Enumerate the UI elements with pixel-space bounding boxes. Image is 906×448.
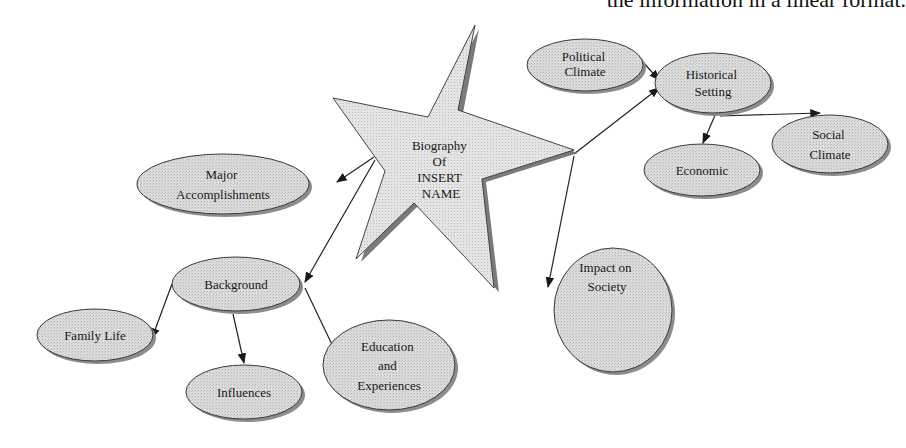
node-family-life[interactable]: Family Life: [37, 309, 156, 364]
node-influences[interactable]: Influences: [186, 365, 305, 422]
node-label: Background: [204, 277, 268, 292]
node-economic[interactable]: Economic: [644, 144, 763, 199]
edge-background-influences: [233, 314, 244, 363]
node-social-climate[interactable]: Social Climate: [772, 115, 891, 176]
edge-background-family: [152, 284, 172, 338]
node-background[interactable]: Background: [172, 257, 303, 314]
node-label: Economic: [676, 163, 729, 178]
node-label: Influences: [217, 385, 271, 400]
node-label: Political Climate: [562, 49, 609, 79]
node-major-accomplishments[interactable]: Major Accomplishments: [137, 154, 312, 217]
concept-map: Biography Of INSERT NAME Political Clima…: [0, 0, 906, 448]
edge-biography-major: [337, 157, 374, 182]
node-education-experiences[interactable]: Education and Experiences: [323, 320, 458, 413]
node-historical-setting[interactable]: Historical Setting: [655, 53, 774, 116]
node-label: Family Life: [64, 328, 126, 343]
node-political-climate[interactable]: Political Climate: [527, 39, 646, 94]
edge-biography-historical-setting: [574, 88, 659, 154]
edge-historical-economic: [703, 113, 716, 143]
node-impact-on-society[interactable]: Impact on Society: [554, 248, 675, 375]
edge-biography-background: [305, 160, 375, 282]
